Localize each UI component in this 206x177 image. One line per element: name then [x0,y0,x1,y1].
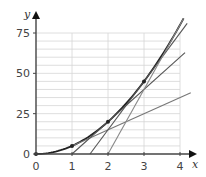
y-axis-label: y [23,8,31,21]
y-tick-label: 0 [23,148,30,161]
curve-line [36,18,184,154]
x-tick-label: 1 [69,160,76,173]
x-tick-label: 4 [177,160,184,173]
points-layer [34,79,146,156]
data-point [70,144,74,148]
y-ticks: 0255075 [16,27,36,161]
x-axis-label: x [192,158,199,171]
tangent-line [108,18,184,154]
x-tick-label: 0 [33,160,40,173]
x-tick-label: 3 [141,160,148,173]
x-ticks: 01234 [33,152,184,173]
y-tick-label: 75 [16,27,30,40]
grid [36,33,180,154]
y-axis-arrow-icon [32,11,40,19]
tangent-line [90,23,187,154]
y-tick-label: 50 [16,67,30,80]
x-tick-label: 2 [105,160,112,173]
data-point [142,79,146,83]
data-point [106,120,110,124]
x-axis-arrow-icon [189,150,197,158]
series-layer [36,18,191,154]
y-tick-label: 25 [16,108,30,121]
chart: 01234 0255075 x y [0,0,206,177]
